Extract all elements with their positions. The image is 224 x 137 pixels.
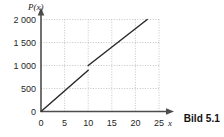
x-tick-label-5: 5 bbox=[62, 118, 67, 128]
x-tick-label-10: 10 bbox=[83, 118, 93, 128]
x-tick-label-0: 0 bbox=[38, 118, 43, 128]
x-axis bbox=[41, 108, 174, 115]
figure-container: 2 000 1 500 1 000 500 0 0 5 10 15 20 25 … bbox=[0, 0, 224, 137]
y-tick-label-0: 0 bbox=[31, 107, 36, 117]
x-tick-label-20: 20 bbox=[130, 118, 140, 128]
figure-caption: Bild 5.1 bbox=[184, 113, 220, 124]
y-tick-label-1000: 1 000 bbox=[13, 61, 36, 71]
x-tick-label-25: 25 bbox=[154, 118, 164, 128]
y-tick-label-500: 500 bbox=[21, 84, 36, 94]
y-tick-label-1500: 1 500 bbox=[13, 38, 36, 48]
grid-horizontal bbox=[41, 20, 160, 89]
y-axis bbox=[38, 8, 45, 112]
x-axis-arrow-icon bbox=[166, 108, 174, 115]
y-axis-title: P(x) bbox=[27, 2, 44, 12]
x-tick-label-15: 15 bbox=[107, 118, 117, 128]
y-tick-label-2000: 2 000 bbox=[13, 15, 36, 25]
function-segment-2 bbox=[88, 20, 147, 66]
x-axis-title: x bbox=[167, 118, 172, 128]
